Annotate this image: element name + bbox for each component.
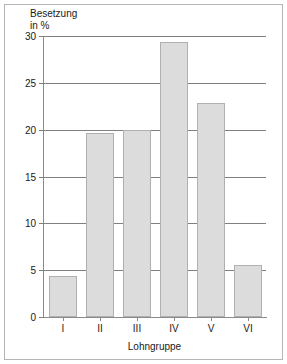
bar bbox=[234, 265, 262, 317]
bar bbox=[197, 103, 225, 317]
y-tick-label: 5 bbox=[30, 265, 36, 276]
gridline bbox=[44, 130, 266, 131]
y-tick-mark bbox=[39, 83, 44, 84]
y-tick-mark bbox=[39, 223, 44, 224]
y-tick-mark bbox=[39, 36, 44, 37]
x-tick-label: II bbox=[97, 323, 103, 334]
bar-chart-figure: Besetzung in % 051015202530IIIIIIIVVVI L… bbox=[0, 0, 287, 364]
gridline bbox=[44, 36, 266, 37]
bar bbox=[49, 276, 77, 317]
y-tick-label: 15 bbox=[25, 172, 36, 183]
gridline bbox=[44, 270, 266, 271]
y-tick-label: 30 bbox=[25, 31, 36, 42]
x-tick-mark bbox=[63, 317, 64, 321]
y-tick-mark bbox=[39, 177, 44, 178]
x-tick-mark bbox=[248, 317, 249, 321]
x-tick-mark bbox=[174, 317, 175, 321]
x-tick-mark bbox=[100, 317, 101, 321]
x-axis-spine bbox=[43, 317, 267, 318]
gridline bbox=[44, 223, 266, 224]
y-axis-title: Besetzung in % bbox=[30, 8, 77, 31]
x-tick-label: III bbox=[133, 323, 141, 334]
x-tick-label: I bbox=[62, 323, 65, 334]
x-tick-mark bbox=[137, 317, 138, 321]
gridline bbox=[44, 83, 266, 84]
y-tick-mark bbox=[39, 270, 44, 271]
gridline bbox=[44, 177, 266, 178]
plot-area: 051015202530IIIIIIIVVVI bbox=[44, 36, 266, 317]
y-tick-label: 10 bbox=[25, 218, 36, 229]
bar bbox=[160, 42, 188, 317]
x-axis-title-wrap: Lohngruppe bbox=[0, 341, 287, 352]
y-tick-label: 25 bbox=[25, 78, 36, 89]
x-tick-label: VI bbox=[243, 323, 252, 334]
y-tick-label: 20 bbox=[25, 125, 36, 136]
x-tick-mark bbox=[211, 317, 212, 321]
y-tick-label: 0 bbox=[30, 312, 36, 323]
x-axis-title: Lohngruppe bbox=[128, 341, 181, 352]
y-tick-mark bbox=[39, 130, 44, 131]
x-tick-label: V bbox=[208, 323, 215, 334]
bar bbox=[123, 130, 151, 317]
y-tick-mark bbox=[39, 317, 44, 318]
bar bbox=[86, 133, 114, 317]
x-tick-label: IV bbox=[169, 323, 178, 334]
